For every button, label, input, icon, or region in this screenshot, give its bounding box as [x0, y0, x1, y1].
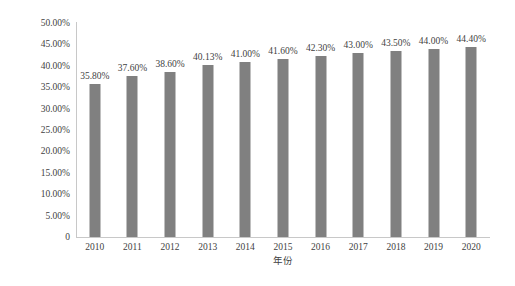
x-axis-title: 年份: [76, 255, 490, 268]
y-axis-tick-labels: 05.00%10.00%15.00%20.00%25.00%30.00%35.0…: [0, 0, 70, 286]
x-axis-tick-label: 2013: [189, 241, 227, 254]
bar[interactable]: [277, 59, 288, 237]
y-axis-tick-label: 30.00%: [0, 104, 70, 114]
bar-value-label: 42.30%: [306, 43, 335, 54]
bar[interactable]: [466, 47, 477, 237]
x-axis-tick-label: 2011: [114, 241, 152, 254]
bar-value-label: 37.60%: [118, 63, 147, 74]
bar-value-label: 35.80%: [80, 71, 109, 82]
bar[interactable]: [89, 84, 100, 237]
bar-value-label: 40.13%: [193, 52, 222, 63]
bar-group: 37.60%: [114, 23, 152, 237]
bar[interactable]: [240, 62, 251, 237]
bar-group: 43.50%: [377, 23, 415, 237]
bar[interactable]: [127, 76, 138, 237]
y-axis-tick-label: 20.00%: [0, 146, 70, 156]
y-axis-tick-label: 50.00%: [0, 18, 70, 28]
bar-chart: 05.00%10.00%15.00%20.00%25.00%30.00%35.0…: [0, 0, 515, 286]
bar-group: 38.60%: [151, 23, 189, 237]
y-axis-tick-label: 10.00%: [0, 189, 70, 199]
bar[interactable]: [390, 51, 401, 237]
bar[interactable]: [165, 72, 176, 237]
bar-value-label: 41.60%: [268, 46, 297, 57]
y-axis-tick-label: 45.00%: [0, 39, 70, 49]
bar-group: 41.00%: [227, 23, 265, 237]
y-axis-tick-label: 0: [0, 232, 70, 242]
x-axis-tick-label: 2010: [76, 241, 114, 254]
x-axis-tick-label: 2017: [339, 241, 377, 254]
y-axis-tick-label: 35.00%: [0, 82, 70, 92]
plot-area: 35.80%37.60%38.60%40.13%41.00%41.60%42.3…: [76, 23, 490, 237]
bar-group: 35.80%: [76, 23, 114, 237]
bar-value-label: 44.00%: [419, 36, 448, 47]
y-axis-tick-label: 25.00%: [0, 125, 70, 135]
bar[interactable]: [202, 65, 213, 237]
bar-value-label: 41.00%: [231, 49, 260, 60]
bar-group: 41.60%: [264, 23, 302, 237]
x-axis-tick-label: 2020: [452, 241, 490, 254]
bar[interactable]: [353, 53, 364, 237]
bar-value-label: 43.00%: [344, 40, 373, 51]
bar-group: 44.40%: [452, 23, 490, 237]
x-axis-tick-label: 2015: [264, 241, 302, 254]
bar-group: 44.00%: [415, 23, 453, 237]
bar-value-label: 38.60%: [155, 59, 184, 70]
bar-group: 42.30%: [302, 23, 340, 237]
x-axis-tick-label: 2019: [415, 241, 453, 254]
bar[interactable]: [315, 56, 326, 237]
y-axis-tick-label: 15.00%: [0, 168, 70, 178]
y-axis-tick-label: 40.00%: [0, 61, 70, 71]
bar[interactable]: [428, 49, 439, 237]
x-axis-line: [76, 237, 490, 238]
x-axis-tick-label: 2012: [151, 241, 189, 254]
bar-value-label: 43.50%: [381, 38, 410, 49]
bar-group: 43.00%: [339, 23, 377, 237]
bar-value-label: 44.40%: [457, 34, 486, 45]
x-axis-tick-label: 2018: [377, 241, 415, 254]
x-axis-tick-label: 2016: [302, 241, 340, 254]
bar-group: 40.13%: [189, 23, 227, 237]
y-axis-tick-label: 5.00%: [0, 211, 70, 221]
x-axis-tick-label: 2014: [227, 241, 265, 254]
